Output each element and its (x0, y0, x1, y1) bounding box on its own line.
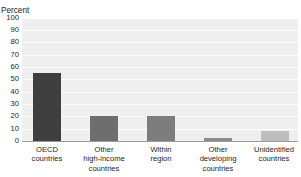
x-label-unidentified-countries: Unidentified countries (234, 145, 301, 164)
bar-oecd-countries (33, 73, 61, 141)
x-label-line: countries (65, 164, 143, 173)
bars-layer (22, 18, 298, 141)
x-label-line: countries (179, 164, 257, 173)
y-tick-40: 40 (0, 88, 19, 96)
y-tick-20: 20 (0, 112, 19, 120)
y-tick-30: 30 (0, 100, 19, 108)
y-tick-60: 60 (0, 63, 19, 71)
x-axis-baseline (22, 141, 298, 142)
x-label-line: Unidentified (234, 145, 301, 154)
bar-unidentified-countries (261, 131, 289, 141)
bar-other-high-income-countries (90, 116, 118, 141)
y-tick-70: 70 (0, 51, 19, 59)
chart-title-clipped (22, 0, 298, 3)
x-label-line: countries (234, 154, 301, 163)
y-tick-90: 90 (0, 26, 19, 34)
y-tick-100: 100 (0, 14, 19, 22)
y-tick-0: 0 (0, 137, 19, 145)
bar-chart-figure: Percent 100 90 80 70 60 50 40 30 20 10 0… (0, 0, 301, 177)
bar-within-region (147, 116, 175, 141)
y-tick-10: 10 (0, 125, 19, 133)
y-tick-80: 80 (0, 38, 19, 46)
y-tick-50: 50 (0, 75, 19, 83)
